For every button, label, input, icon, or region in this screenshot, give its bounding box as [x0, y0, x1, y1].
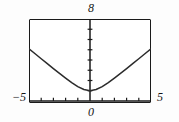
graph-figure: 8 0 −5 5 — [0, 0, 179, 122]
axis-label-left: −5 — [4, 91, 26, 103]
plot-canvas — [29, 19, 151, 103]
axis-label-right: 5 — [157, 91, 173, 103]
axis-label-top: 8 — [84, 2, 98, 14]
y-axis-group — [88, 19, 93, 101]
axis-label-bottom: 0 — [84, 106, 98, 118]
